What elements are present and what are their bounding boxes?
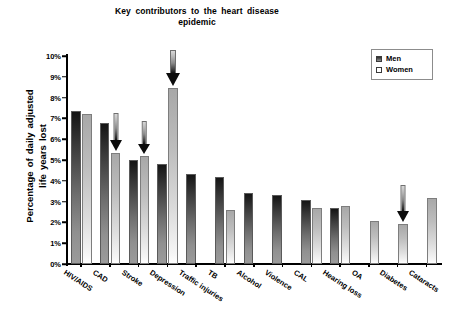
arrow-diabetes-women xyxy=(397,185,410,222)
bar-cal-women xyxy=(312,208,322,264)
bar-violence-men xyxy=(272,195,282,264)
y-tick-label: 4% xyxy=(50,176,61,185)
bar-cad-men xyxy=(100,123,110,264)
y-tick-label: 0% xyxy=(50,260,61,269)
x-axis-label-stroke: Stroke xyxy=(120,268,144,288)
chart-legend: Men Women xyxy=(371,49,433,80)
x-tick-mark xyxy=(282,263,284,267)
bar-diabetes-women xyxy=(398,224,408,264)
arrow-shaft xyxy=(142,121,147,145)
chart-figure: Key contributors to the heart disease ep… xyxy=(0,0,455,324)
x-axis-label-cal: CAL xyxy=(292,268,310,284)
chart-title-line-1: Key contributors to the heart disease xyxy=(72,6,322,17)
plot-area: 0%1%2%3%4%5%6%7%8%9%10% xyxy=(66,56,440,264)
y-tick-label: 9% xyxy=(50,72,61,81)
y-tick-mark xyxy=(62,222,66,224)
bar-alcohol-men xyxy=(244,193,254,264)
y-tick-label: 5% xyxy=(50,156,61,165)
x-tick-mark xyxy=(339,263,341,267)
x-tick-mark xyxy=(397,263,399,267)
arrow-stroke-women xyxy=(138,121,150,154)
x-tick-mark xyxy=(426,263,428,267)
bar-cad-women xyxy=(111,153,121,264)
y-tick-mark xyxy=(62,138,66,140)
y-tick-label: 1% xyxy=(50,239,61,248)
legend-label-women: Women xyxy=(386,65,413,74)
y-tick-label: 3% xyxy=(50,197,61,206)
legend-swatch-men-icon xyxy=(376,56,382,62)
y-tick-mark xyxy=(62,242,66,244)
arrow-cad-women xyxy=(109,113,122,151)
x-tick-mark xyxy=(167,263,169,267)
arrow-shaft xyxy=(113,113,118,141)
bar-cal-men xyxy=(301,200,311,264)
x-axis-label-cataracts: Cataracts xyxy=(407,268,441,294)
legend-label-men: Men xyxy=(386,54,401,63)
bar-hiv-aids-women xyxy=(82,114,92,264)
y-tick-mark xyxy=(62,159,66,161)
x-tick-mark xyxy=(138,263,140,267)
y-tick-mark xyxy=(62,97,66,99)
x-axis-label-tb: TB xyxy=(206,268,219,281)
bar-stroke-men xyxy=(129,160,139,264)
y-axis-title: Percentage of daily adjusted life years … xyxy=(23,56,49,256)
x-axis-label-hiv-aids: HIV/AIDS xyxy=(62,268,94,293)
x-axis-label-alcohol: Alcohol xyxy=(235,268,263,291)
bar-cataracts-women xyxy=(427,198,437,264)
x-tick-mark xyxy=(253,263,255,267)
x-axis-label-violence: Violence xyxy=(263,268,294,292)
y-tick-mark xyxy=(62,76,66,78)
bar-traffic-injuries-men xyxy=(186,174,196,264)
y-tick-label: 8% xyxy=(50,93,61,102)
legend-item-women: Women xyxy=(376,64,428,75)
bar-depression-men xyxy=(157,164,167,264)
arrow-shaft xyxy=(170,50,176,74)
chart-title-line-2: epidemic xyxy=(72,17,322,28)
x-axis-label-diabetes: Diabetes xyxy=(379,268,410,293)
arrow-head xyxy=(110,140,122,151)
bar-oa-women xyxy=(370,221,380,264)
x-tick-mark xyxy=(195,263,197,267)
y-tick-mark xyxy=(62,201,66,203)
y-tick-mark xyxy=(62,180,66,182)
bar-hearing-loss-men xyxy=(330,208,340,264)
bar-hiv-aids-men xyxy=(71,111,81,264)
arrow-shaft xyxy=(401,185,406,212)
legend-swatch-women-icon xyxy=(376,67,382,73)
y-tick-mark xyxy=(62,263,66,265)
bar-depression-women xyxy=(168,88,178,264)
y-tick-label: 6% xyxy=(50,135,61,144)
y-tick-mark xyxy=(62,55,66,57)
bar-tb-women xyxy=(226,210,236,264)
y-axis-title-line-2: life years lost xyxy=(36,56,49,256)
bar-hearing-loss-women xyxy=(341,206,351,264)
y-axis-title-line-1: Percentage of daily adjusted xyxy=(23,56,36,256)
arrow-head xyxy=(166,73,180,86)
arrow-head xyxy=(397,211,409,222)
chart-title: Key contributors to the heart disease ep… xyxy=(72,6,322,28)
bar-stroke-women xyxy=(140,156,150,264)
x-tick-mark xyxy=(311,263,313,267)
x-tick-mark xyxy=(109,263,111,267)
legend-item-men: Men xyxy=(376,53,428,64)
x-axis-label-oa: OA xyxy=(350,268,364,282)
y-tick-mark xyxy=(62,118,66,120)
y-tick-label: 2% xyxy=(50,218,61,227)
x-tick-mark xyxy=(224,263,226,267)
y-tick-label: 10% xyxy=(46,52,61,61)
bar-tb-men xyxy=(215,177,225,264)
x-axis-label-cad: CAD xyxy=(91,268,110,284)
y-tick-label: 7% xyxy=(50,114,61,123)
x-tick-mark xyxy=(368,263,370,267)
x-tick-mark xyxy=(80,263,82,267)
arrow-depression-women xyxy=(166,50,181,86)
arrow-head xyxy=(138,144,150,154)
